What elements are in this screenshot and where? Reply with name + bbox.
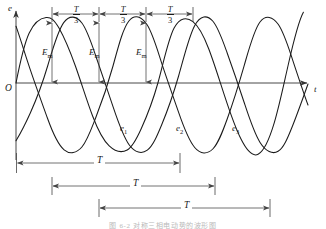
third-period-denominator-1: 3: [68, 15, 84, 24]
amplitude-label-3: Em: [136, 48, 147, 59]
period-label-1: T: [94, 156, 105, 166]
curve-label-e2: e2: [176, 124, 183, 135]
figure-container: e t O T 3 T 3 T 3 Em Em Em e1 e2 e3 T T …: [0, 0, 326, 229]
third-period-label-2: T 3: [115, 5, 131, 24]
third-period-label-3: T 3: [162, 5, 178, 24]
curve-e2: [16, 17, 308, 153]
third-period-numerator-2: T: [115, 5, 131, 14]
third-period-numerator-3: T: [162, 5, 178, 14]
curve-label-e2-sub: 2: [180, 128, 183, 135]
waveform-plot: [0, 0, 326, 229]
axis-group: [16, 11, 307, 160]
period-label-2: T: [130, 179, 141, 189]
x-axis-label: t: [314, 85, 317, 94]
y-axis-label: e: [8, 4, 12, 13]
third-period-denominator-2: 3: [115, 15, 131, 24]
figure-caption: 图 6-2 对称三相电动势的波形图: [0, 220, 326, 229]
curve-e3: [16, 17, 308, 153]
period-label-3: T: [181, 201, 192, 211]
third-period-denominator-3: 3: [162, 15, 178, 24]
amplitude-label-2: Em: [89, 48, 100, 59]
curve-label-e1: e1: [120, 124, 127, 135]
third-period-numerator-1: T: [68, 5, 84, 14]
curve-label-e3: e3: [232, 124, 239, 135]
third-period-label-1: T 3: [68, 5, 84, 24]
amplitude-label-1: Em: [42, 48, 53, 59]
amplitude-label-1-sub: m: [48, 52, 53, 59]
amplitude-label-3-sub: m: [142, 52, 147, 59]
curve-label-e1-sub: 1: [124, 128, 127, 135]
curve-label-e3-sub: 3: [236, 128, 239, 135]
period-dimension-group: [17, 153, 271, 217]
curve-e1: [16, 12, 303, 155]
curve-group: [16, 12, 308, 155]
amplitude-label-2-sub: m: [95, 52, 100, 59]
origin-label: O: [5, 84, 12, 94]
